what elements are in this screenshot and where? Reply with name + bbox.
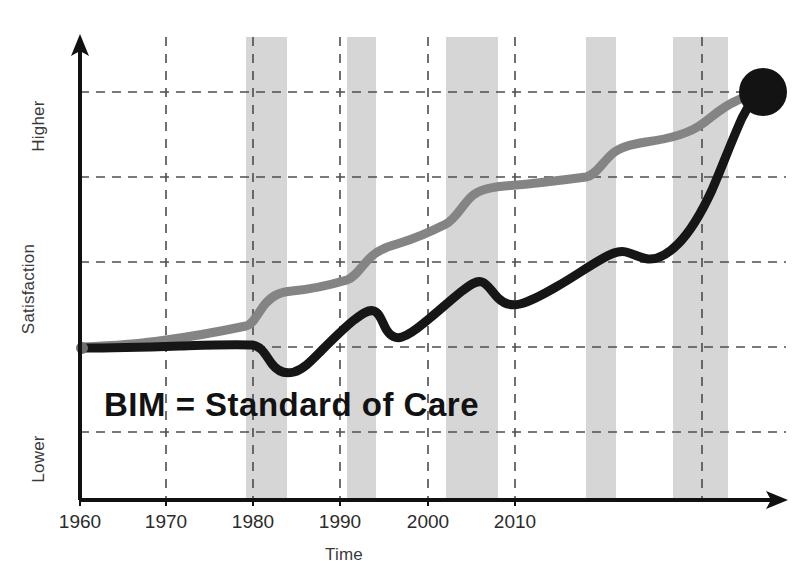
series-end-marker	[739, 68, 787, 116]
y-axis-label-lower: Lower	[29, 415, 49, 503]
x-tick-label-1960: 1960	[40, 511, 120, 533]
y-axis-title: Satisfaction	[19, 229, 39, 349]
shaded-band	[446, 37, 498, 500]
x-axis-title: Time	[284, 545, 404, 565]
x-tick-label-2000: 2000	[388, 511, 468, 533]
chart-annotation-bim: BIM = Standard of Care	[104, 386, 479, 424]
chart-plot-area	[0, 0, 804, 582]
x-tick-label-1990: 1990	[300, 511, 380, 533]
series-line-expectations	[82, 93, 760, 347]
shaded-bands-group	[246, 37, 728, 500]
x-tick-label-2010: 2010	[475, 511, 555, 533]
y-axis	[71, 34, 89, 500]
y-axis-label-higher: Higher	[29, 81, 49, 171]
chart-figure: Higher Satisfaction Lower 1960 1970 1980…	[0, 0, 804, 582]
x-tick-label-1970: 1970	[126, 511, 206, 533]
x-tick-label-1980: 1980	[213, 511, 293, 533]
shaded-band	[246, 37, 287, 500]
